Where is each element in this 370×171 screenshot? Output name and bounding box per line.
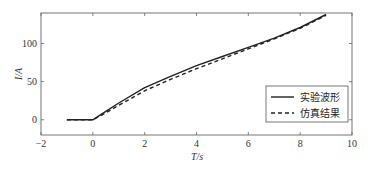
- x-axis-label: T/s: [191, 151, 203, 162]
- x-tick-label: 6: [246, 138, 251, 149]
- line-chart: −20246810 050100 T/s I/A 实验波形 仿真结果: [0, 0, 370, 171]
- x-tick-label: 4: [194, 138, 199, 149]
- x-tick-label: 2: [142, 138, 147, 149]
- legend-label-experiment: 实验波形: [300, 91, 340, 103]
- y-tick-label: 50: [27, 76, 37, 87]
- legend: 实验波形 仿真结果: [266, 86, 348, 122]
- y-tick-label: 0: [32, 114, 37, 125]
- x-axis-ticks: −20246810: [36, 13, 357, 149]
- legend-label-simulation: 仿真结果: [300, 107, 340, 119]
- y-axis-label: I/A: [13, 67, 24, 81]
- x-tick-label: −2: [36, 138, 47, 149]
- y-tick-label: 100: [22, 38, 37, 49]
- x-tick-label: 10: [347, 138, 357, 149]
- x-tick-label: 8: [298, 138, 303, 149]
- x-tick-label: 0: [90, 138, 95, 149]
